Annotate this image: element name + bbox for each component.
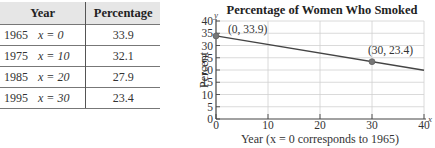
x-tick-label: 20	[314, 119, 326, 131]
y-tick-label: 30	[202, 40, 214, 52]
y-axis-var: y	[213, 10, 218, 20]
x-tick-label: 30	[366, 119, 378, 131]
grid	[216, 21, 424, 119]
data-point	[369, 59, 375, 65]
y-tick-label: 40	[202, 15, 214, 27]
x-tick-label: 10	[262, 119, 274, 131]
data-point	[213, 33, 219, 39]
data-series: (0, 33.9)(30, 23.4)	[213, 23, 424, 70]
point-label: (0, 33.9)	[228, 23, 267, 36]
x-axis-label: Year (x = 0 corresponds to 1965)	[241, 132, 399, 146]
y-tick-label: 10	[202, 89, 214, 101]
chart-title: Percentage of Women Who Smoked	[227, 3, 418, 17]
y-tick-label: 35	[202, 27, 214, 39]
line-chart: Percentage of Women Who Smoked 051015202…	[0, 0, 435, 148]
point-label: (30, 23.4)	[368, 44, 413, 57]
x-tick-label: 0	[213, 119, 219, 131]
x-axis-var: x	[427, 114, 432, 124]
y-tick-label: 5	[207, 101, 213, 113]
y-axis-label: Percent	[197, 51, 211, 88]
